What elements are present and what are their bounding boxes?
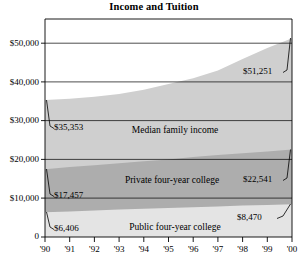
value-label-median-end: $51,251 (243, 66, 272, 76)
value-label-median-start: $35,353 (54, 122, 83, 132)
series-label-median-family-income: Median family income (110, 125, 240, 135)
value-label-private-start: $17,457 (54, 190, 83, 200)
x-tick-label-93: '93 (106, 244, 132, 254)
x-tick-label-96: '96 (180, 244, 206, 254)
y-tick-label-20000: $20,000 (0, 154, 39, 164)
x-tick-label-90: '90 (32, 244, 58, 254)
y-axis-ticks (41, 43, 45, 237)
x-tick-label-95: '95 (156, 244, 182, 254)
x-tick-label-00: '00 (279, 244, 305, 254)
y-tick-label-50000: $50,000 (0, 38, 39, 48)
value-label-public-start: $6,406 (54, 223, 79, 233)
x-tick-label-92: '92 (81, 244, 107, 254)
series-label-private-four-year-college: Private four-year college (107, 175, 237, 185)
x-axis-ticks (45, 237, 292, 242)
x-tick-label-97: '97 (205, 244, 231, 254)
y-tick-label-10000: $10,000 (0, 193, 39, 203)
y-tick-label-30000: $30,000 (0, 115, 39, 125)
series-label-public-four-year-college: Public four-year college (110, 222, 240, 232)
x-tick-label-98: '98 (230, 244, 256, 254)
chart-container: Income and Tuition (0, 0, 308, 262)
x-tick-label-91: '91 (57, 244, 83, 254)
x-tick-label-94: '94 (131, 244, 157, 254)
y-tick-label-40000: $40,000 (0, 77, 39, 87)
x-tick-label-99: '99 (254, 244, 280, 254)
y-tick-label-0: 0 (0, 231, 39, 241)
value-label-private-end: $22,541 (243, 174, 272, 184)
value-label-public-end: $8,470 (237, 212, 262, 222)
